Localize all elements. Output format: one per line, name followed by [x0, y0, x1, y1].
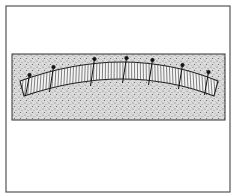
diagram-canvas: [0, 0, 237, 196]
